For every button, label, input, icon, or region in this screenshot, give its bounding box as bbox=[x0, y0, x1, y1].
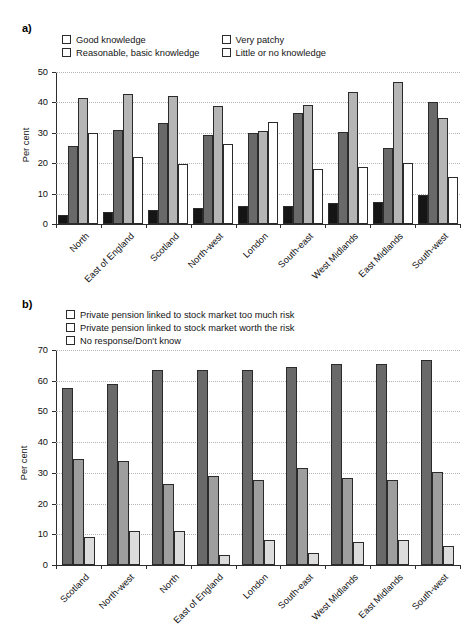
x-axis-tick bbox=[101, 224, 102, 228]
gridline bbox=[56, 381, 460, 382]
bar bbox=[208, 476, 219, 565]
x-axis-tick bbox=[325, 565, 326, 569]
x-axis-line-a bbox=[56, 224, 460, 225]
bar bbox=[103, 212, 113, 224]
x-axis-tick bbox=[236, 224, 237, 228]
gridline bbox=[56, 72, 460, 73]
x-axis-tick bbox=[280, 565, 281, 569]
legend-item: Good knowledge bbox=[62, 33, 200, 46]
legend-label: Private pension linked to stock market w… bbox=[80, 323, 294, 333]
y-axis-tick-label: 50 bbox=[20, 67, 48, 77]
x-axis-tick bbox=[191, 565, 192, 569]
bar bbox=[358, 167, 368, 224]
x-axis-tick bbox=[460, 224, 461, 228]
legend-swatch-worth-the-risk bbox=[66, 323, 75, 332]
bar bbox=[62, 388, 73, 565]
bar bbox=[308, 553, 319, 565]
panel-a-label: a) bbox=[22, 22, 32, 34]
bar bbox=[68, 146, 78, 224]
x-axis-line-b bbox=[56, 565, 460, 566]
y-axis-title-b: Per cent bbox=[19, 433, 29, 493]
x-axis-category-label: South-west bbox=[365, 572, 450, 643]
y-axis-tick-label: 50 bbox=[20, 406, 48, 416]
bar bbox=[376, 364, 387, 565]
y-axis-tick bbox=[52, 381, 56, 382]
y-axis-tick bbox=[52, 473, 56, 474]
bar bbox=[133, 157, 143, 224]
legend-column-right: Very patchy Little or no knowledge bbox=[222, 33, 326, 59]
y-axis-tick bbox=[52, 133, 56, 134]
legend-label: Reasonable, basic knowledge bbox=[76, 48, 200, 58]
x-axis-tick bbox=[280, 224, 281, 228]
bar bbox=[331, 364, 342, 565]
bar bbox=[258, 131, 268, 224]
legend-label: Good knowledge bbox=[76, 35, 146, 45]
x-axis-tick bbox=[56, 224, 57, 228]
chart-panel-a: a) Good knowledge Reasonable, basic know… bbox=[0, 0, 476, 300]
y-axis-line-a bbox=[56, 72, 57, 225]
legend-item: Little or no knowledge bbox=[222, 46, 326, 59]
plot-area-b: 010203040506070ScotlandNorth-westNorthEa… bbox=[56, 350, 460, 565]
y-axis-tick-label: 60 bbox=[20, 376, 48, 386]
gridline bbox=[56, 350, 460, 351]
legend-swatch-good-knowledge bbox=[62, 35, 71, 44]
x-axis-tick bbox=[146, 565, 147, 569]
legend-item: Very patchy bbox=[222, 33, 326, 46]
legend-swatch-no-response bbox=[66, 336, 75, 345]
bar bbox=[421, 360, 432, 565]
x-axis-tick bbox=[325, 224, 326, 228]
bar bbox=[203, 135, 213, 224]
y-axis-tick-label: 10 bbox=[20, 189, 48, 199]
bar bbox=[283, 206, 293, 224]
bar bbox=[303, 105, 313, 224]
bar bbox=[219, 555, 230, 565]
legend-swatch-reasonable-basic-knowledge bbox=[62, 48, 71, 57]
bar bbox=[84, 537, 95, 565]
bar bbox=[418, 195, 428, 224]
bar bbox=[393, 82, 403, 224]
y-axis-tick-label: 70 bbox=[20, 345, 48, 355]
bar bbox=[448, 177, 458, 224]
x-axis-tick bbox=[56, 565, 57, 569]
legend-column-left: Good knowledge Reasonable, basic knowled… bbox=[62, 33, 200, 59]
y-axis-tick-label: 0 bbox=[20, 219, 48, 229]
x-axis-tick bbox=[415, 224, 416, 228]
bar bbox=[158, 123, 168, 224]
bar bbox=[197, 370, 208, 565]
bar bbox=[313, 169, 323, 224]
y-axis-tick bbox=[52, 102, 56, 103]
bar bbox=[223, 144, 233, 224]
bar bbox=[248, 133, 258, 224]
y-axis-tick-label: 40 bbox=[20, 97, 48, 107]
legend-panel-b: Private pension linked to stock market t… bbox=[66, 308, 294, 347]
bar bbox=[174, 531, 185, 565]
bar bbox=[432, 472, 443, 565]
bar bbox=[297, 468, 308, 565]
y-axis-tick-label: 0 bbox=[20, 560, 48, 570]
legend-label: Private pension linked to stock market t… bbox=[80, 310, 294, 320]
y-axis-tick bbox=[52, 350, 56, 351]
legend-swatch-very-patchy bbox=[222, 35, 231, 44]
x-axis-tick bbox=[101, 565, 102, 569]
legend-label: Little or no knowledge bbox=[236, 48, 326, 58]
bar bbox=[73, 459, 84, 565]
bar bbox=[348, 92, 358, 224]
bar bbox=[293, 113, 303, 224]
bar bbox=[107, 384, 118, 565]
legend-item: Private pension linked to stock market w… bbox=[66, 321, 294, 334]
bar bbox=[178, 164, 188, 224]
bar bbox=[168, 96, 178, 224]
bar bbox=[238, 206, 248, 224]
bar bbox=[193, 208, 203, 224]
y-axis-tick bbox=[52, 442, 56, 443]
x-axis-tick bbox=[415, 565, 416, 569]
legend-item: No response/Don't know bbox=[66, 334, 294, 347]
bar bbox=[78, 98, 88, 224]
bar bbox=[268, 122, 278, 224]
y-axis-tick bbox=[52, 534, 56, 535]
bar bbox=[338, 132, 348, 224]
legend-item: Private pension linked to stock market t… bbox=[66, 308, 294, 321]
bar bbox=[383, 148, 393, 224]
bar bbox=[118, 461, 129, 565]
bar bbox=[264, 540, 275, 565]
